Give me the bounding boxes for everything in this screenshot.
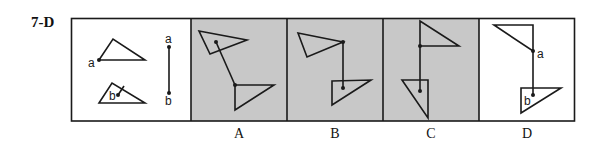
option-d-label[interactable]: D <box>507 126 547 142</box>
option-c-label[interactable]: C <box>411 126 451 142</box>
triangle-a <box>99 39 145 60</box>
segment-b-label: b <box>165 94 172 108</box>
option-a-background <box>191 18 287 121</box>
option-d-point-b-label: b <box>524 94 531 108</box>
reference-point-a-label: a <box>88 56 95 70</box>
option-a-label[interactable]: A <box>219 126 259 142</box>
segment-a-label: a <box>165 32 172 46</box>
reference-point-b-label: b <box>109 89 116 103</box>
option-b-label[interactable]: B <box>315 126 355 142</box>
option-c-background <box>383 18 479 121</box>
option-d-point-a-label: a <box>537 47 544 61</box>
triangle-b <box>99 83 145 103</box>
